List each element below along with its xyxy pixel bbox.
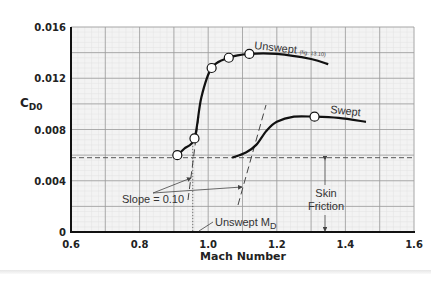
y-tick-label: 0.016 <box>34 22 66 33</box>
y-tick-labels: 00.0040.0080.0120.016 <box>34 22 66 238</box>
x-tick-label: 1.4 <box>337 239 355 250</box>
x-tick-label: 1.0 <box>199 239 217 250</box>
y-tick-label: 0 <box>59 227 66 238</box>
x-tick-label: 0.6 <box>62 239 80 250</box>
data-point-marker <box>190 134 199 143</box>
x-tick-label: 1.6 <box>405 239 423 250</box>
data-point-marker <box>207 64 216 73</box>
data-point-marker <box>245 49 254 58</box>
x-tick-label: 0.8 <box>131 239 149 250</box>
y-tick-label: 0.012 <box>34 73 66 84</box>
chart: 0.60.81.01.21.41.6 00.0040.0080.0120.016… <box>0 0 431 288</box>
x-tick-label: 1.2 <box>268 239 286 250</box>
x-axis-label: Mach Number <box>200 250 286 263</box>
slope-label: Slope = 0.10 <box>122 193 184 205</box>
y-tick-label: 0.004 <box>34 176 66 187</box>
data-point-marker <box>224 53 233 62</box>
data-point-marker <box>310 112 319 121</box>
y-axis-label: CD0 <box>20 96 43 112</box>
page-edge-shadow <box>0 270 431 274</box>
data-point-marker <box>173 151 182 160</box>
skin-friction-label-2: Friction <box>308 200 344 212</box>
y-tick-label: 0.008 <box>34 125 66 136</box>
skin-friction-label-1: Skin <box>315 187 336 199</box>
x-tick-labels: 0.60.81.01.21.41.6 <box>62 239 423 250</box>
